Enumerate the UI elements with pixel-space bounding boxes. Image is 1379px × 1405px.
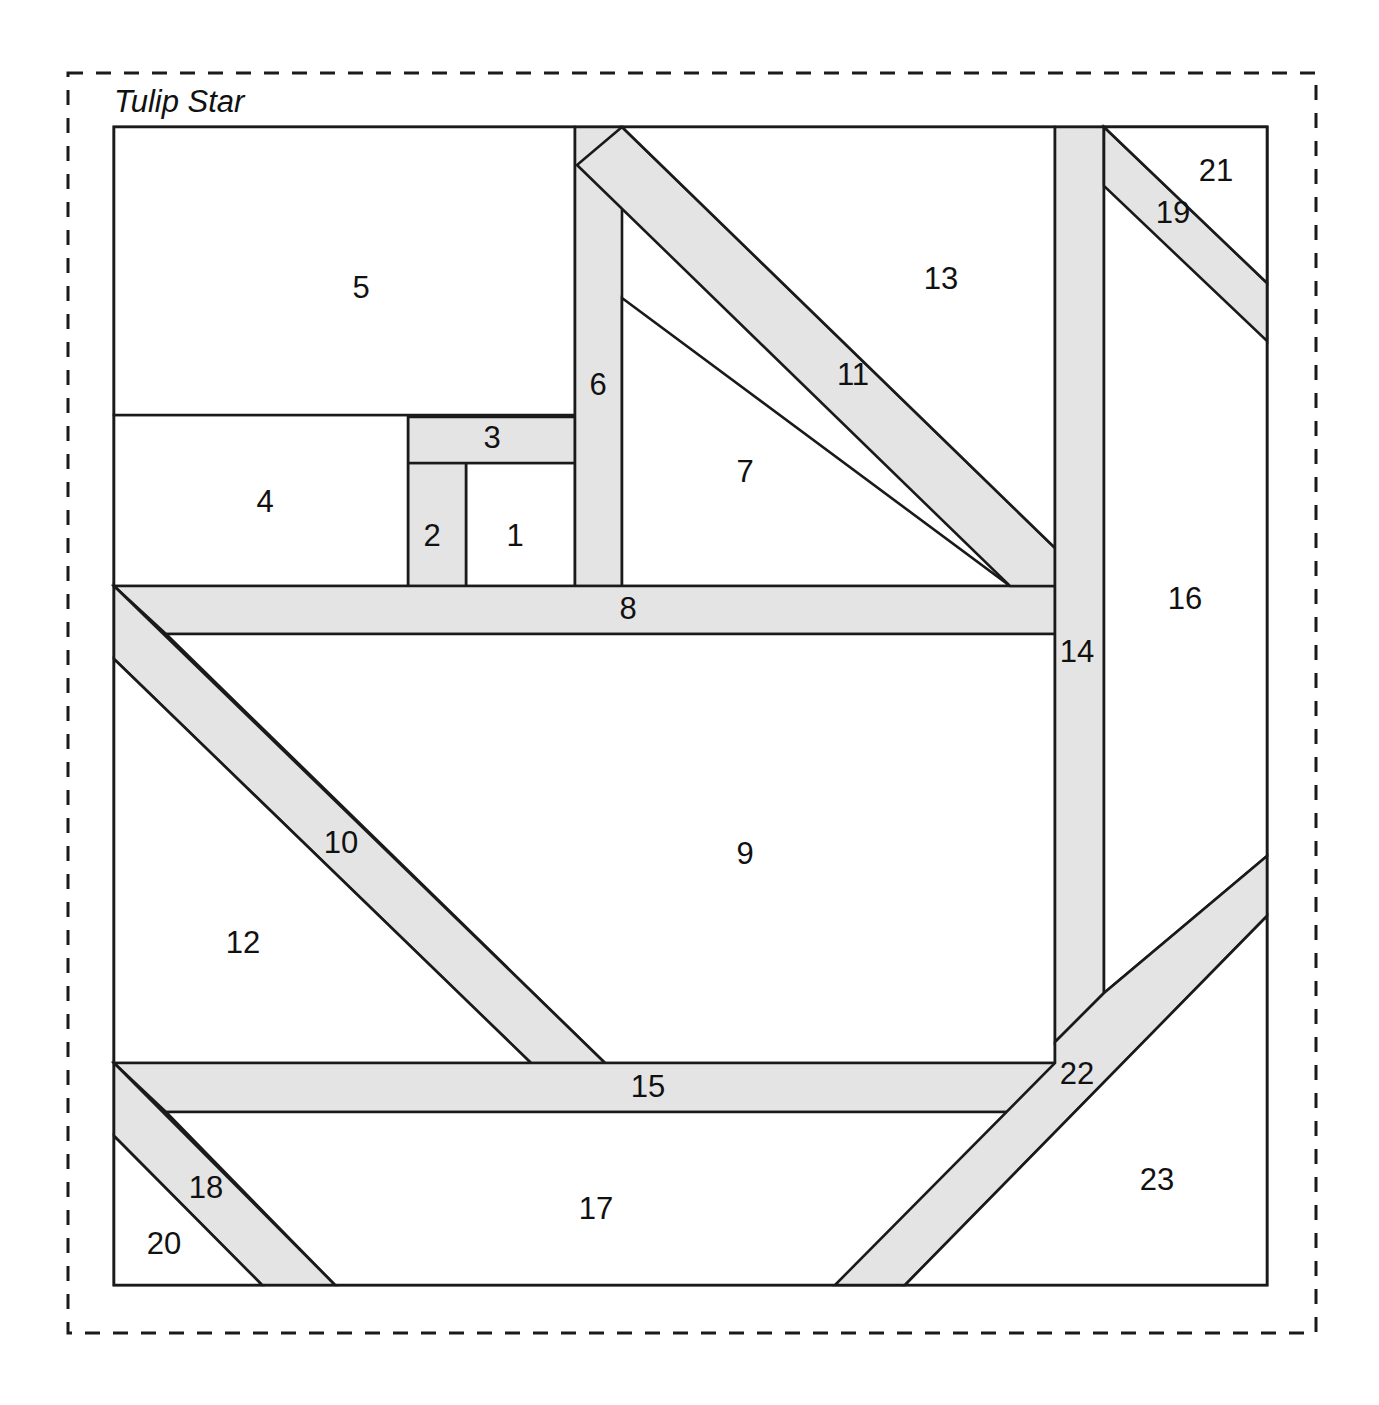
page-root: Tulip Star 12345678910111213141516171819… (0, 0, 1379, 1405)
piece-number-21: 21 (1199, 153, 1233, 188)
piece-number-9: 9 (736, 836, 753, 871)
piece-number-22: 22 (1060, 1056, 1094, 1091)
piece-number-8: 8 (619, 591, 636, 626)
piece-number-1: 1 (506, 518, 523, 553)
piece-number-3: 3 (483, 420, 500, 455)
piece-number-5: 5 (352, 270, 369, 305)
piece-number-6: 6 (589, 367, 606, 402)
quilt-block-diagram: Tulip Star 12345678910111213141516171819… (0, 0, 1379, 1405)
piece-number-16: 16 (1168, 581, 1202, 616)
piece-number-14: 14 (1060, 634, 1094, 669)
block-title: Tulip Star (114, 84, 246, 119)
piece-number-11: 11 (837, 357, 869, 392)
piece-number-17: 17 (579, 1191, 613, 1226)
piece-number-15: 15 (631, 1069, 665, 1104)
piece-number-20: 20 (147, 1226, 181, 1261)
piece-number-19: 19 (1156, 195, 1190, 230)
piece-number-12: 12 (226, 925, 260, 960)
piece-number-2: 2 (423, 518, 440, 553)
piece-number-23: 23 (1140, 1162, 1174, 1197)
quilt-piece-14 (1055, 127, 1104, 1042)
piece-number-18: 18 (189, 1170, 223, 1205)
quilt-piece-5 (114, 127, 575, 415)
piece-number-10: 10 (324, 825, 358, 860)
quilt-piece-8 (114, 586, 1055, 634)
piece-number-7: 7 (736, 454, 753, 489)
piece-number-4: 4 (256, 484, 273, 519)
quilt-piece-15 (114, 1063, 1055, 1112)
piece-number-13: 13 (924, 261, 958, 296)
